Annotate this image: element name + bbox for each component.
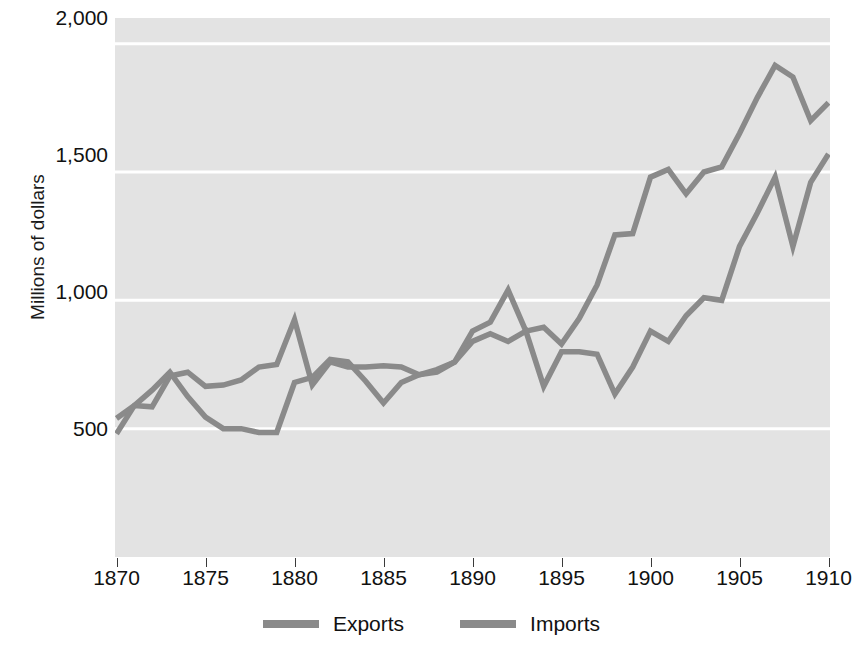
chart-legend: Exports Imports: [0, 612, 863, 636]
legend-label-imports: Imports: [530, 612, 600, 636]
legend-item-imports[interactable]: Imports: [460, 612, 600, 636]
y-tick-1000: 1,000: [16, 281, 108, 302]
plot-area: [115, 18, 830, 557]
series-line-exports: [117, 65, 829, 418]
x-tick-1900: 1900: [616, 566, 686, 590]
x-tick-1870: 1870: [82, 566, 152, 590]
y-tick-500: 500: [16, 418, 108, 439]
y-axis-tick-labels: 2,000 1,500 1,000 500: [8, 0, 108, 560]
legend-label-exports: Exports: [333, 612, 404, 636]
y-tick-2000: 2,000: [16, 7, 108, 28]
x-tick-1885: 1885: [349, 566, 419, 590]
legend-swatch-imports: [460, 620, 516, 628]
legend-swatch-exports: [263, 620, 319, 628]
x-tick-1880: 1880: [260, 566, 330, 590]
series-line-imports: [117, 154, 829, 434]
gridlines: [115, 44, 830, 429]
x-tick-1905: 1905: [705, 566, 775, 590]
series-lines: [117, 65, 829, 433]
x-tick-1890: 1890: [438, 566, 508, 590]
legend-item-exports[interactable]: Exports: [263, 612, 404, 636]
x-tick-1875: 1875: [171, 566, 241, 590]
y-tick-1500: 1,500: [16, 144, 108, 165]
chart-canvas: [115, 18, 830, 557]
chart-figure: Millions of dollars 2,000 1,500 1,000 50…: [0, 0, 863, 659]
x-tick-1895: 1895: [527, 566, 597, 590]
x-tick-1910: 1910: [794, 566, 863, 590]
